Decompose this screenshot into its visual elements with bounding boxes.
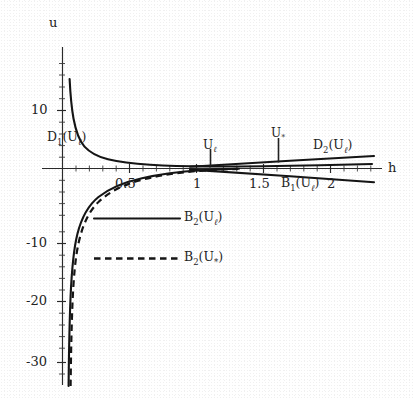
curve-label-d2-base: D — [313, 137, 323, 152]
legend-b2-ul-arg-open: (U — [199, 209, 214, 224]
x-axis-label: h — [388, 161, 396, 174]
point-u-l-base: U — [203, 138, 213, 152]
curve-label-d1-ul: D1(Uℓ) — [47, 131, 86, 146]
curve-label-b1-ul: B1(Uℓ) — [281, 177, 319, 192]
point-u-star-base: U — [271, 126, 281, 140]
y-axis-label: u — [49, 16, 57, 29]
point-u-l-sub: ℓ — [213, 145, 216, 154]
point-u-star-sub: * — [281, 133, 285, 142]
curve-label-d1-arg-close: ) — [81, 129, 86, 144]
axis-major-ticks — [57, 111, 331, 363]
legend-b2-ul-arg-close: ) — [218, 209, 223, 224]
curve-label-b1-arg-close: ) — [315, 175, 320, 190]
curve-label-d2-arg-close: ) — [347, 137, 352, 152]
curve-label-d1-base: D — [47, 129, 57, 144]
figure-plot-u-vs-h: u h 10 -10 -20 -30 0.5 1 1.5 2 D1(Uℓ) D2… — [0, 0, 414, 400]
y-tick-label-10: 10 — [31, 103, 48, 116]
curve-b2-ul — [69, 169, 239, 386]
curve-b2-ustar — [71, 169, 238, 386]
legend-b2-ustar-arg-open: (U — [199, 249, 214, 264]
plot-canvas — [0, 0, 414, 400]
x-tick-label-1: 1 — [193, 177, 201, 190]
legend-b2-ustar-arg-close: ) — [218, 249, 223, 264]
curve-label-d2-arg-open: (U — [328, 137, 343, 152]
point-label-u-l: Uℓ — [203, 139, 216, 154]
curve-label-d1-arg-open: (U — [62, 129, 77, 144]
x-tick-label-0-5: 0.5 — [115, 177, 136, 190]
legend-label-b2-ul: B2(Uℓ) — [184, 211, 222, 226]
legend-b2-ustar-base: B — [184, 249, 193, 264]
legend-b2-ul-base: B — [184, 209, 193, 224]
y-tick-label-neg30: -30 — [26, 355, 47, 368]
curve-label-b1-base: B — [281, 175, 290, 190]
point-label-u-star: U* — [271, 127, 285, 142]
legend-sample-lines — [94, 219, 180, 259]
curve-label-d2-ul: D2(Uℓ) — [313, 139, 352, 154]
y-tick-label-neg10: -10 — [26, 236, 47, 249]
x-tick-label-1-5: 1.5 — [249, 177, 270, 190]
curve-label-b1-arg-open: (U — [296, 175, 311, 190]
legend-label-b2-ustar: B2(U*) — [184, 251, 223, 266]
x-tick-label-2: 2 — [327, 177, 335, 190]
y-tick-label-neg20: -20 — [26, 294, 47, 307]
